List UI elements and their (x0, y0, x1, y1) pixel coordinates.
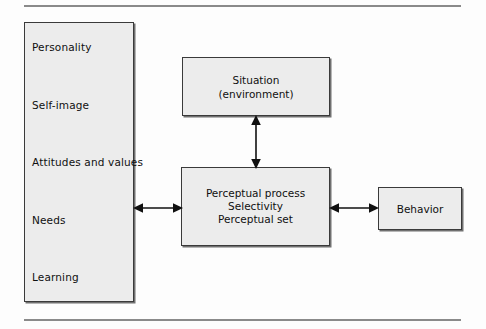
behavior-box: Behavior (378, 187, 462, 230)
personal-factors-list: Personality Self-image Attitudes and val… (25, 23, 133, 301)
arrow-factors-to-perception (133, 199, 183, 217)
behavior-label: Behavior (397, 203, 444, 215)
factor-personality: Personality (32, 41, 133, 53)
factor-self-image: Self-image (32, 99, 133, 111)
situation-line-2: (environment) (218, 88, 293, 100)
situation-box: Situation (environment) (182, 57, 330, 116)
arrow-perception-to-behavior (329, 199, 379, 217)
situation-line-1: Situation (233, 74, 280, 86)
factor-needs: Needs (32, 214, 133, 226)
personal-factors-box: Personality Self-image Attitudes and val… (24, 22, 134, 302)
bottom-rule (24, 319, 461, 321)
arrow-situation-to-perception (247, 115, 265, 169)
factor-attitudes-and-values: Attitudes and values (32, 156, 133, 168)
factor-learning: Learning (32, 271, 133, 283)
perception-line-1: Perceptual process (206, 187, 305, 200)
situation-label: Situation (environment) (218, 73, 293, 101)
perception-process-diagram: Personality Self-image Attitudes and val… (0, 0, 486, 329)
perception-line-2: Selectivity (206, 200, 305, 213)
perceptual-process-label: Perceptual process Selectivity Perceptua… (206, 187, 305, 226)
perceptual-process-box: Perceptual process Selectivity Perceptua… (181, 167, 330, 246)
top-rule (24, 5, 461, 7)
perception-line-3: Perceptual set (206, 213, 305, 226)
